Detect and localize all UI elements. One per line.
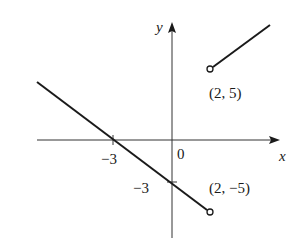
x-axis-label: x: [278, 148, 286, 164]
y-axis: [168, 22, 176, 238]
y-tick-label-neg3: −3: [133, 180, 149, 196]
x-axis: [37, 136, 280, 144]
right-line-segment: [213, 25, 270, 67]
open-circle-lower: [207, 209, 213, 215]
point-label-upper: (2, 5): [209, 85, 242, 102]
piecewise-function-graph: y x 0 −3 −3 (2, 5) (2, −5): [0, 0, 299, 241]
y-axis-label: y: [154, 19, 163, 35]
open-circle-upper: [207, 66, 213, 72]
origin-label: 0: [177, 146, 185, 162]
x-tick-label-neg3: −3: [101, 151, 117, 167]
point-label-lower: (2, −5): [209, 180, 250, 197]
